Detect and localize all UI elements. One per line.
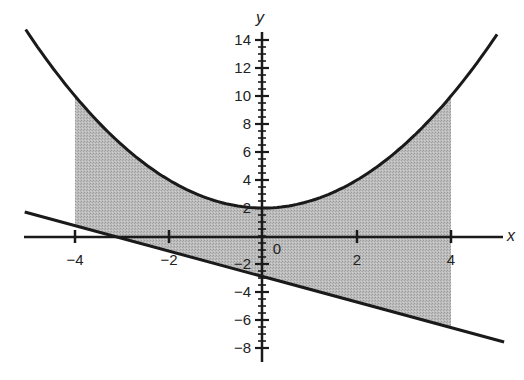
chart: −4−2024−8−6−4−22468101214 x y xyxy=(0,0,524,380)
x-tick-label: −4 xyxy=(66,251,83,268)
y-tick-label: 12 xyxy=(234,59,251,76)
y-tick-label: −2 xyxy=(234,255,251,272)
y-tick-label: −4 xyxy=(234,283,251,300)
y-tick-label: −6 xyxy=(234,311,251,328)
y-tick-label: 10 xyxy=(234,87,251,104)
x-tick-label: 4 xyxy=(447,251,455,268)
y-tick-label: 6 xyxy=(243,143,251,160)
y-tick-label: 14 xyxy=(234,31,251,48)
y-axis xyxy=(255,32,269,362)
y-tick-label: 2 xyxy=(243,199,251,216)
x-axis-label: x xyxy=(506,227,516,244)
x-tick-label: 2 xyxy=(353,251,361,268)
y-tick-label: 8 xyxy=(243,115,251,132)
x-tick-label: −2 xyxy=(160,251,177,268)
y-tick-label: 4 xyxy=(243,171,251,188)
y-tick-label: −8 xyxy=(234,339,251,356)
x-tick-label: 0 xyxy=(273,240,281,257)
y-axis-label: y xyxy=(255,9,265,26)
